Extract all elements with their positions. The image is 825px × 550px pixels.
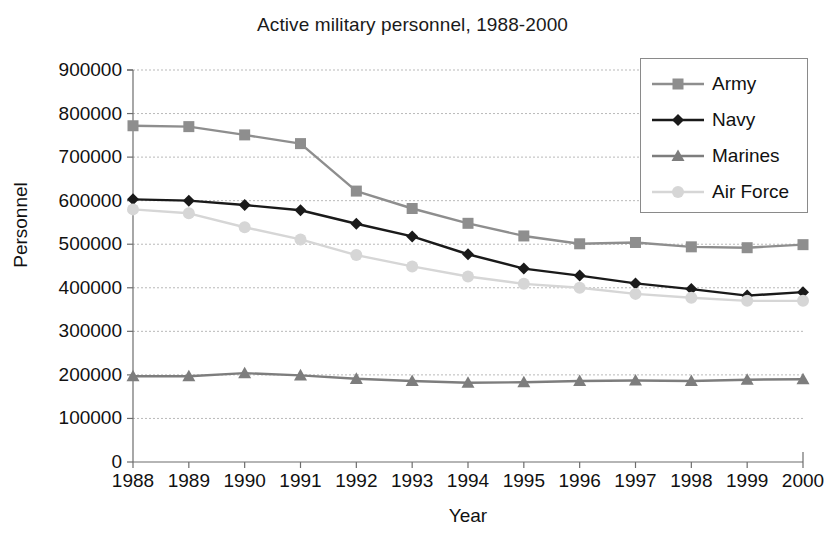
y-tick-label: 600000 [59, 190, 122, 212]
data-point-navy [462, 248, 474, 260]
x-tick-label: 1998 [670, 470, 712, 492]
legend-marker [673, 79, 684, 90]
data-point-navy [630, 277, 642, 289]
data-point-army [351, 186, 362, 197]
x-tick-label: 2000 [782, 470, 824, 492]
legend-swatch-triangle-icon [650, 144, 706, 168]
data-point-army [239, 129, 250, 140]
legend-swatch-square-icon [650, 72, 706, 96]
data-point-army [798, 239, 809, 250]
y-tick-label: 800000 [59, 103, 122, 125]
y-tick-label: 900000 [59, 59, 122, 81]
x-axis-title: Year [133, 505, 803, 527]
y-tick-label: 100000 [59, 407, 122, 429]
y-tick-label: 300000 [59, 320, 122, 342]
x-tick-label: 1992 [335, 470, 377, 492]
y-tick-label: 200000 [59, 364, 122, 386]
legend-item-army[interactable]: Army [641, 65, 809, 103]
x-axis-tick-labels: 1988198919901991199219931994199519961997… [133, 470, 803, 500]
x-tick-label: 1993 [391, 470, 433, 492]
legend-marker [672, 114, 684, 126]
x-tick-label: 1990 [224, 470, 266, 492]
data-point-navy [518, 263, 530, 275]
data-point-air-force [574, 282, 586, 294]
y-tick-label: 700000 [59, 146, 122, 168]
y-tick-label: 400000 [59, 277, 122, 299]
data-point-air-force [406, 260, 418, 272]
data-point-air-force [462, 270, 474, 282]
y-axis-tick-labels: 0100000200000300000400000500000600000700… [0, 70, 122, 462]
x-tick-label: 1997 [614, 470, 656, 492]
legend-label: Navy [712, 109, 755, 131]
data-point-navy [574, 270, 586, 282]
chart-container: Active military personnel, 1988-2000 Per… [0, 0, 825, 550]
data-point-air-force [239, 221, 251, 233]
data-point-air-force [295, 233, 307, 245]
data-point-army [742, 242, 753, 253]
x-tick-label: 1994 [447, 470, 489, 492]
legend-label: Air Force [712, 181, 789, 203]
data-point-army [518, 230, 529, 241]
data-point-air-force [741, 295, 753, 307]
data-point-navy [239, 199, 251, 211]
data-point-navy [350, 218, 362, 230]
data-point-navy [183, 195, 195, 207]
legend-swatch-diamond-icon [650, 108, 706, 132]
legend-marker [672, 186, 684, 198]
data-point-air-force [183, 207, 195, 219]
x-tick-label: 1988 [112, 470, 154, 492]
data-point-air-force [685, 292, 697, 304]
data-point-army [407, 203, 418, 214]
data-point-army [295, 138, 306, 149]
data-point-navy [406, 230, 418, 242]
x-tick-label: 1996 [559, 470, 601, 492]
x-tick-label: 1995 [503, 470, 545, 492]
chart-title: Active military personnel, 1988-2000 [0, 14, 825, 36]
legend-label: Army [712, 73, 756, 95]
chart-legend: ArmyNavyMarinesAir Force [640, 58, 808, 213]
data-point-army [183, 121, 194, 132]
legend-swatch-circle-icon [650, 180, 706, 204]
data-point-army [463, 218, 474, 229]
x-tick-label: 1989 [168, 470, 210, 492]
data-point-army [574, 238, 585, 249]
x-tick-label: 1999 [726, 470, 768, 492]
data-point-air-force [630, 288, 642, 300]
x-tick-label: 1991 [279, 470, 321, 492]
data-point-army [630, 237, 641, 248]
data-point-air-force [797, 295, 809, 307]
data-point-air-force [127, 203, 139, 215]
legend-item-navy[interactable]: Navy [641, 101, 809, 139]
data-point-navy [295, 204, 307, 216]
data-point-air-force [350, 249, 362, 261]
legend-item-marines[interactable]: Marines [641, 137, 809, 175]
data-point-army [128, 120, 139, 131]
legend-item-air-force[interactable]: Air Force [641, 173, 809, 211]
y-tick-label: 500000 [59, 233, 122, 255]
data-point-air-force [518, 278, 530, 290]
legend-label: Marines [712, 145, 780, 167]
data-point-army [686, 241, 697, 252]
